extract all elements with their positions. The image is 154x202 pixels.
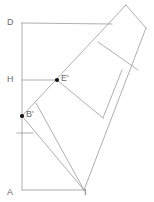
vertex-label-B-prime: B' — [26, 110, 34, 119]
vertex-label-A: A — [7, 188, 13, 197]
point-marker-E-prime — [55, 78, 59, 82]
vertex-label-D: D — [7, 18, 14, 27]
vertex-label-I: I — [84, 188, 87, 197]
point-marker-B-prime — [20, 114, 24, 118]
geometry-canvas — [0, 0, 154, 202]
geometry-figure: DHE'B'AI — [0, 0, 154, 202]
segment-top-edge-D-to-apex — [22, 23, 112, 24]
segment-strip-divider-lower — [103, 70, 122, 118]
segment-diagonal-I-to-Eprime-up — [36, 103, 84, 190]
segment-top-right-edge — [126, 5, 146, 28]
segment-diagonal-Eprime-to-right — [57, 80, 103, 118]
segment-left-fan-Bprime-to-I — [22, 116, 84, 190]
vertex-label-H: H — [7, 75, 14, 84]
segment-layer — [17, 5, 146, 190]
segment-right-edge-apex-to-I — [84, 28, 146, 190]
segment-strip-divider-upper — [98, 42, 138, 70]
vertex-label-E-prime: E' — [61, 74, 69, 83]
